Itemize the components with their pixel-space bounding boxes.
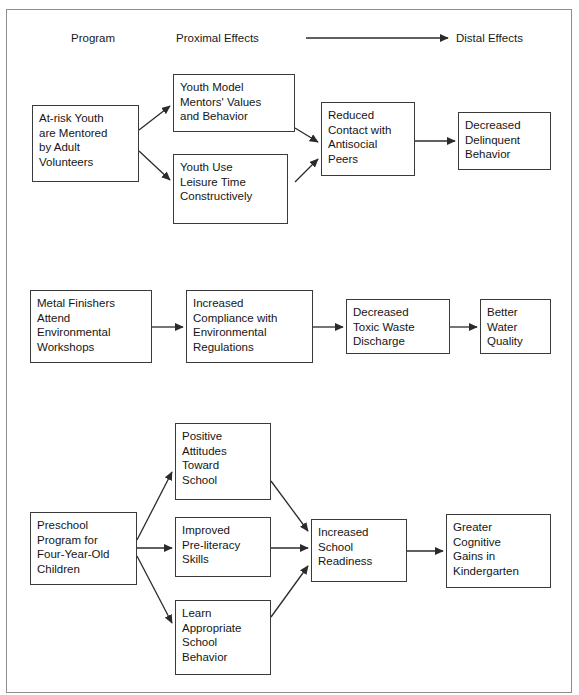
node-greater-cognitive-gains-kindergarten: Greater Cognitive Gains in Kindergarten [446,514,551,588]
edge-p-prox-3-p-mid [271,566,308,617]
node-at-risk-youth-mentored: At-risk Youth are Mentored by Adult Volu… [32,105,139,182]
edge-m-prox-1-m-mid [295,128,318,142]
node-increased-school-readiness: Increased School Readiness [311,519,407,582]
node-decreased-toxic-waste-discharge: Decreased Toxic Waste Discharge [346,299,450,354]
edge-m-prox-2-m-mid [295,159,318,182]
node-youth-use-leisure-time: Youth Use Leisure Time Constructively [173,154,288,224]
node-reduced-contact-antisocial-peers: Reduced Contact with Antisocial Peers [321,102,415,176]
node-improved-pre-literacy-skills: Improved Pre-literacy Skills [175,517,271,577]
edge-p-program-p-prox-1 [137,472,172,540]
node-positive-attitudes-toward-school: Positive Attitudes Toward School [175,423,271,500]
node-learn-appropriate-school-behavior: Learn Appropriate School Behavior [175,600,271,675]
edge-m-program-m-prox-1 [139,106,170,130]
edge-p-prox-1-p-mid [271,481,308,531]
edge-m-program-m-prox-2 [139,151,170,180]
node-preschool-program-four-year-old: Preschool Program for Four-Year-Old Chil… [30,512,137,585]
edge-p-program-p-prox-3 [137,556,172,623]
node-youth-model-mentors-values: Youth Model Mentors' Values and Behavior [173,74,295,132]
diagram-page: Program Proximal Effects Distal Effects … [0,0,579,695]
column-header-distal-effects: Distal Effects [456,33,523,45]
node-decreased-delinquent-behavior: Decreased Delinquent Behavior [458,112,551,170]
node-better-water-quality: Better Water Quality [480,299,551,354]
column-header-program: Program [71,33,115,45]
node-increased-compliance-regulations: Increased Compliance with Environmental … [186,290,313,363]
node-metal-finishers-attend-workshops: Metal Finishers Attend Environmental Wor… [30,290,152,363]
column-header-proximal-effects: Proximal Effects [176,33,259,45]
